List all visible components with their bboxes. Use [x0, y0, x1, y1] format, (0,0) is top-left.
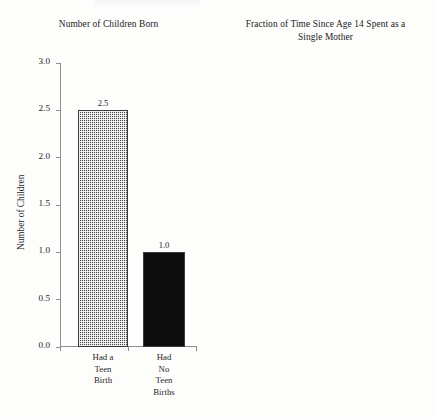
y-tick-left: 2.0 — [56, 157, 61, 158]
x-category-label: Had a Teen Birth — [93, 352, 114, 387]
x-tick-left — [196, 346, 197, 351]
y-tick-label-left: 1.5 — [39, 198, 50, 208]
chart-title-right: Fraction of Time Since Age 14 Spent as a… — [225, 18, 426, 43]
chart-panel-fraction-time: Fraction of Time Since Age 14 Spent as a… — [217, 0, 434, 418]
x-category-label: Had No Teen Births — [153, 352, 175, 398]
x-tick-left — [60, 346, 61, 351]
y-tick-label-left: 2.5 — [39, 103, 50, 113]
y-axis-label-left: Number of Children — [16, 175, 26, 250]
bar-left-1: 1.0Had No Teen Births — [143, 252, 185, 347]
chart-title-right-line: Fraction of Time Since Age 14 Spent as a — [246, 19, 406, 29]
y-tick-label-left: 1.0 — [39, 245, 50, 255]
plot-area-left: 0.00.51.01.52.02.53.02.5Had a Teen Birth… — [60, 63, 197, 347]
x-tick-left — [128, 346, 129, 351]
chart-title-left: Number of Children Born — [8, 18, 209, 31]
chart-title-right-line: Single Mother — [298, 32, 353, 42]
bar-left-0: 2.5Had a Teen Birth — [78, 110, 128, 347]
y-tick-label-left: 3.0 — [39, 56, 50, 66]
y-tick-label-left: 0.0 — [39, 340, 50, 350]
y-tick-label-left: 2.0 — [39, 151, 50, 161]
y-tick-left: 1.0 — [56, 252, 61, 253]
bar-value-label: 2.5 — [98, 98, 109, 108]
bar-value-label: 1.0 — [159, 240, 170, 250]
y-tick-left: 3.0 — [56, 63, 61, 64]
y-tick-left: 1.5 — [56, 205, 61, 206]
y-tick-label-left: 0.5 — [39, 293, 50, 303]
y-tick-left: 0.5 — [56, 299, 61, 300]
chart-panel-children-born: Number of Children Born 0.00.51.01.52.02… — [0, 0, 217, 418]
figure-page: Number of Children Born 0.00.51.01.52.02… — [0, 0, 434, 418]
y-tick-left: 2.5 — [56, 110, 61, 111]
